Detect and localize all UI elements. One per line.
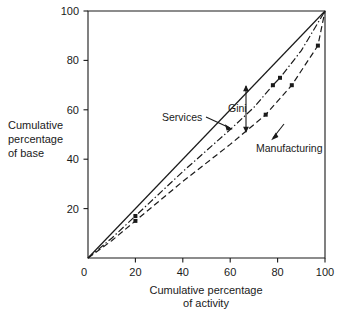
- x-tick-label-20: 20: [129, 266, 141, 278]
- y-axis-title-line-2: percentage: [8, 133, 63, 145]
- series-manufacturing-markers: [133, 44, 320, 223]
- annotation-manufacturing-arrowhead-icon: [271, 133, 278, 141]
- annotation-manufacturing-label: Manufacturing: [256, 142, 323, 154]
- y-tick-label-80: 80: [67, 54, 79, 66]
- gini-arrowhead-down-icon: [243, 127, 249, 133]
- marker-manufacturing-2: [264, 113, 268, 117]
- marker-services-3: [278, 76, 282, 80]
- x-axis-title-line-2: of activity: [183, 297, 229, 309]
- y-axis-title-line-1: Cumulative: [8, 119, 63, 131]
- annotation-services: Services: [162, 111, 233, 131]
- marker-manufacturing-3: [290, 83, 294, 87]
- y-axis-ticks: [84, 11, 89, 209]
- lorenz-curve-chart: 100 80 60 40 20 0 20 40 60 80 100 Cumula…: [0, 0, 350, 312]
- x-axis-title: Cumulative percentage of activity: [149, 284, 262, 309]
- y-axis-title-line-3: of base: [8, 147, 44, 159]
- x-tick-label-0: 0: [81, 266, 87, 278]
- annotation-manufacturing: Manufacturing: [256, 124, 323, 154]
- series-line-of-equality: [88, 11, 325, 258]
- annotation-services-arrowhead-icon: [225, 124, 233, 130]
- y-tick-label-20: 20: [67, 203, 79, 215]
- x-axis-title-line-1: Cumulative percentage: [149, 284, 262, 296]
- x-tick-label-60: 60: [224, 266, 236, 278]
- y-tick-label-40: 40: [67, 153, 79, 165]
- y-tick-labels: 100 80 60 40 20: [61, 5, 79, 215]
- y-tick-label-100: 100: [61, 5, 79, 17]
- annotation-services-label: Services: [162, 111, 202, 123]
- marker-manufacturing-1: [133, 219, 137, 223]
- y-tick-label-60: 60: [67, 104, 79, 116]
- marker-services-1: [133, 214, 137, 218]
- x-tick-labels: 0 20 40 60 80 100: [81, 266, 334, 278]
- x-axis-ticks: [135, 258, 325, 263]
- x-tick-label-80: 80: [271, 266, 283, 278]
- y-axis-title: Cumulative percentage of base: [8, 119, 63, 159]
- marker-manufacturing-4: [316, 44, 320, 48]
- chart-page: 100 80 60 40 20 0 20 40 60 80 100 Cumula…: [0, 0, 350, 312]
- annotation-gini: Gini: [228, 102, 247, 114]
- x-tick-label-100: 100: [316, 266, 334, 278]
- annotation-gini-label: Gini: [228, 102, 247, 114]
- gini-arrowhead-up-icon: [243, 85, 249, 91]
- marker-services-2: [271, 83, 275, 87]
- x-tick-label-40: 40: [177, 266, 189, 278]
